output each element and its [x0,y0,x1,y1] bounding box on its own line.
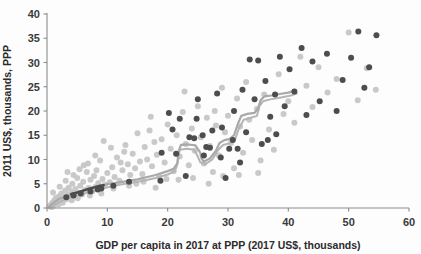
data-point [194,116,200,122]
data-point [225,113,231,119]
data-point [219,85,225,91]
data-point [149,163,155,169]
data-point [355,97,361,103]
data-point [303,112,309,118]
data-point [126,179,132,185]
data-point [287,66,293,72]
data-point [243,79,249,85]
data-point [226,146,232,152]
data-point [373,87,379,93]
data-point [137,158,143,164]
data-point [182,89,188,95]
data-point [159,150,165,156]
data-point [273,131,279,137]
y-axis-title: 2011 US$, thousands, PPP [1,45,13,177]
x-tick-label: 20 [162,216,174,228]
y-tick-labels: 0510152025303540 [28,8,40,214]
data-point [153,185,159,191]
data-point [325,90,331,96]
data-point [355,28,361,34]
data-point [340,77,346,83]
chart-figure: 0102030405060 0510152025303540 GDP per c… [0,0,421,254]
data-point [348,55,354,61]
data-point [240,150,246,156]
data-point [92,153,98,159]
data-point [132,165,138,171]
data-point [210,169,216,175]
y-tick-label: 5 [34,178,40,190]
data-point [317,98,323,104]
data-point [80,179,86,185]
data-point [334,108,340,114]
data-point [218,155,224,161]
data-point [118,159,124,165]
y-tick-label: 20 [28,105,40,117]
data-point [125,161,131,167]
data-point [63,178,69,184]
data-point [122,142,128,148]
y-tick-label: 25 [28,81,40,93]
data-point [204,115,210,121]
data-point [207,145,213,151]
data-point [112,174,118,180]
data-point [291,89,297,95]
data-point [247,57,253,63]
data-point [235,146,241,152]
data-point [93,167,99,173]
data-point [291,120,297,126]
data-point [272,92,278,98]
data-point [110,183,116,189]
data-point [277,54,283,60]
x-tick-label: 30 [222,216,234,228]
data-point [69,181,75,187]
background-points-layer [46,29,378,210]
data-point [219,124,225,130]
data-point [97,157,103,163]
data-point [299,45,305,51]
x-tick-labels: 0102030405060 [44,216,415,228]
data-point [91,173,97,179]
data-point [237,159,243,165]
data-point [276,71,282,77]
data-point [144,157,150,163]
data-point [142,144,148,150]
data-point [71,192,77,198]
y-tick-label: 15 [28,129,40,141]
data-point [157,178,163,184]
data-point [230,137,236,143]
data-point [78,190,84,196]
data-point [234,95,240,101]
data-point [267,114,273,120]
data-point [183,173,189,179]
data-point [223,175,229,181]
data-point [239,87,245,93]
data-point [127,172,133,178]
data-point [176,177,182,183]
data-point [135,130,141,136]
data-point [243,129,249,135]
data-point [309,59,315,65]
data-point [87,189,93,195]
data-point [209,127,215,133]
data-point [168,146,174,152]
data-point [100,176,106,182]
data-point [200,132,206,138]
data-point [163,176,169,182]
data-point [119,167,125,173]
data-point [252,96,258,102]
data-point [366,64,372,70]
data-point [206,181,212,187]
data-point [139,171,145,177]
data-point [266,126,272,132]
data-point [271,147,277,153]
data-point [191,135,197,141]
data-point [148,114,154,120]
data-point [297,54,303,60]
data-point [130,151,136,157]
data-point [57,184,63,190]
data-point [77,166,83,172]
data-point [71,172,77,178]
x-tick-label: 10 [101,216,113,228]
data-point [151,139,157,145]
data-point [324,51,330,57]
